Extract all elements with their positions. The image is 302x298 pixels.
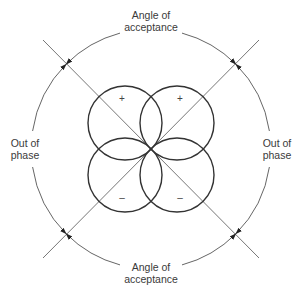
label-line: acceptance	[111, 21, 191, 33]
arc-top-right	[182, 33, 236, 64]
sign-bottom-right-negative: –	[174, 193, 186, 203]
label-line: acceptance	[111, 273, 191, 285]
label-line: phase	[4, 149, 46, 161]
label-left-out-of-phase: Out of phase	[4, 137, 46, 161]
label-line: Angle of	[111, 9, 191, 21]
label-right-out-of-phase: Out of phase	[256, 137, 298, 161]
label-line: phase	[256, 149, 298, 161]
arc-top-left	[66, 33, 120, 64]
arc-left-upper	[33, 64, 67, 131]
arc-right-upper	[236, 64, 270, 131]
label-top-angle-of-acceptance: Angle of acceptance	[111, 9, 191, 33]
label-line: Angle of	[111, 261, 191, 273]
arc-left-lower	[33, 167, 67, 234]
label-line: Out of	[256, 137, 298, 149]
sign-top-left-positive: +	[116, 94, 128, 104]
sign-bottom-left-negative: –	[116, 193, 128, 203]
label-bottom-angle-of-acceptance: Angle of acceptance	[111, 261, 191, 285]
sign-top-right-positive: +	[174, 94, 186, 104]
arc-right-lower	[236, 167, 270, 234]
label-line: Out of	[4, 137, 46, 149]
